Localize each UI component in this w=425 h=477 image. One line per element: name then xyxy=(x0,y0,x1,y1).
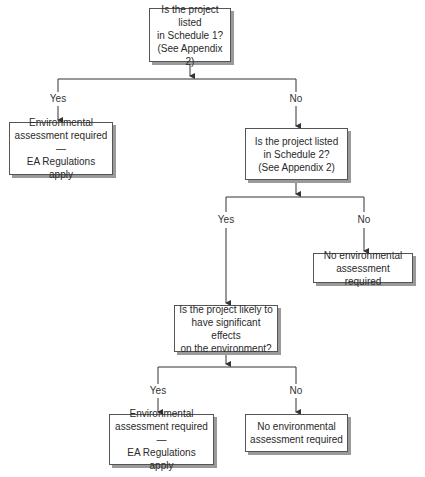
edge-label-q3-no: No xyxy=(288,385,305,397)
outcome-ea-required-1: Environmental assessment required — EA R… xyxy=(9,122,113,175)
decision-schedule-2-text: Is the project listed in Schedule 2? (Se… xyxy=(255,135,338,174)
decision-significant-effects-text: Is the project likely to have significan… xyxy=(179,303,273,355)
decision-schedule-1: Is the project listed in Schedule 1? (Se… xyxy=(149,8,231,62)
decision-significant-effects: Is the project likely to have significan… xyxy=(174,305,278,352)
outcome-no-ea-2: No environmental assessment required xyxy=(245,414,348,452)
edge-label-q3-yes: Yes xyxy=(148,385,168,397)
connector-lines xyxy=(0,0,425,477)
decision-schedule-2: Is the project listed in Schedule 2? (Se… xyxy=(245,128,348,180)
outcome-no-ea-1-text: No environmental assessment required xyxy=(318,249,408,288)
outcome-no-ea-1: No environmental assessment required xyxy=(313,253,413,283)
decision-schedule-1-text: Is the project listed in Schedule 1? (Se… xyxy=(154,3,226,68)
outcome-ea-required-2-text: Environmental assessment required — EA R… xyxy=(114,407,209,472)
edge-label-q2-no: No xyxy=(356,214,373,226)
outcome-ea-required-1-text: Environmental assessment required — EA R… xyxy=(14,116,108,181)
edge-label-q1-yes: Yes xyxy=(48,93,68,105)
edge-label-q1-no: No xyxy=(288,93,305,105)
outcome-no-ea-2-text: No environmental assessment required xyxy=(250,420,343,446)
edge-label-q2-yes: Yes xyxy=(216,214,236,226)
outcome-ea-required-2: Environmental assessment required — EA R… xyxy=(109,414,214,465)
